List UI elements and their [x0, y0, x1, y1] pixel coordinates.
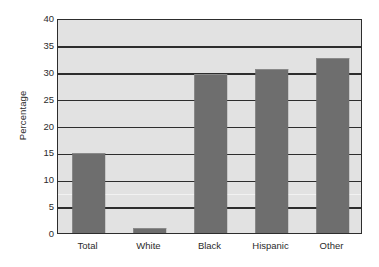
y-axis-tick-label: 25 — [28, 95, 54, 105]
y-axis-tick-labels: 0510152025303540 — [28, 19, 54, 234]
plot-area — [57, 19, 362, 234]
bar[interactable] — [194, 74, 228, 233]
bar-chart: Percentage 0510152025303540 TotalWhiteBl… — [0, 0, 379, 267]
x-axis-tick-label: Hispanic — [240, 240, 301, 252]
x-axis-tick-label: Total — [57, 240, 118, 252]
y-axis-tick-label: 40 — [28, 14, 54, 24]
y-axis-tick-label: 35 — [28, 41, 54, 51]
bar[interactable] — [133, 228, 167, 233]
x-axis-tick-label: White — [118, 240, 179, 252]
y-axis-tick-label: 0 — [28, 229, 54, 239]
bar-slot — [119, 20, 180, 233]
bar-slot — [302, 20, 363, 233]
y-axis-tick-label: 10 — [28, 176, 54, 186]
bar[interactable] — [72, 153, 106, 233]
y-axis-tick-label: 20 — [28, 122, 54, 132]
y-axis-tick-label: 15 — [28, 149, 54, 159]
bars-layer — [58, 20, 361, 233]
x-axis-tick-label: Other — [301, 240, 362, 252]
x-axis-tick-label: Black — [179, 240, 240, 252]
y-axis-title: Percentage — [17, 61, 28, 171]
x-axis-tick-labels: TotalWhiteBlackHispanicOther — [57, 240, 362, 256]
y-axis-tick-label: 30 — [28, 68, 54, 78]
bar[interactable] — [255, 69, 289, 233]
y-axis-tick-label: 5 — [28, 202, 54, 212]
bar-slot — [58, 20, 119, 233]
bar-slot — [180, 20, 241, 233]
bar-slot — [241, 20, 302, 233]
bar[interactable] — [316, 58, 350, 233]
